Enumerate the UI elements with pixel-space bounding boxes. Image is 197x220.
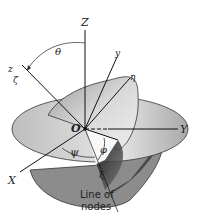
label-xi: ξ — [99, 169, 105, 180]
label-O: O — [71, 122, 81, 135]
euler-angles-diagram: Z Y X z ζ y η ξ θ O ψ φ Line of nodes — [0, 0, 197, 220]
label-z: z — [7, 64, 13, 74]
origin-point — [83, 127, 87, 131]
label-line-of: Line of — [80, 189, 114, 200]
label-zeta: ζ — [13, 75, 19, 85]
label-theta: θ — [55, 46, 61, 57]
label-nodes: nodes — [81, 201, 111, 212]
label-eta: η — [130, 72, 136, 82]
label-y: y — [114, 48, 121, 58]
label-X: X — [7, 174, 17, 187]
label-psi: ψ — [70, 146, 79, 159]
label-phi: φ — [100, 144, 107, 155]
label-Z: Z — [80, 16, 89, 29]
